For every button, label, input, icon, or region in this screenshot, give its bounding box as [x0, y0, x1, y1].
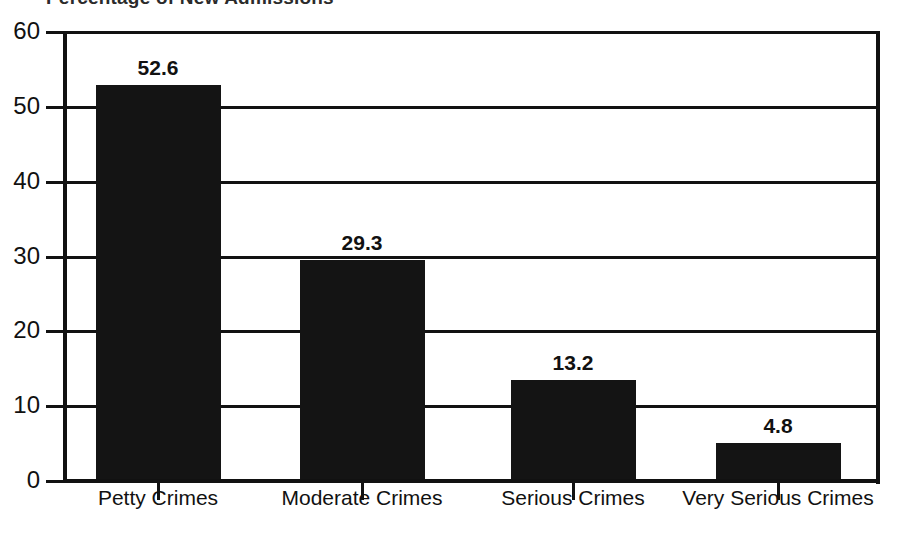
bar-value-label: 29.3: [302, 232, 422, 253]
y-axis-tick-label: 40: [13, 169, 40, 193]
y-axis-tick: [46, 256, 63, 259]
bar: [300, 260, 425, 479]
y-axis-tick-label: 30: [13, 244, 40, 268]
y-axis-tick: [46, 106, 63, 109]
bar-value-label: 4.8: [718, 415, 838, 436]
y-axis-tick: [46, 405, 63, 408]
y-axis-tick-label: 50: [13, 94, 40, 118]
x-category-label: Very Serious Crimes: [648, 487, 901, 508]
plot-area: [63, 32, 880, 481]
gridline: [63, 31, 880, 34]
bar: [96, 85, 221, 479]
y-axis-tick: [46, 480, 63, 483]
y-axis-tick: [46, 330, 63, 333]
y-axis-tick-label: 60: [13, 19, 40, 43]
y-axis-tick: [46, 31, 63, 34]
y-axis-tick: [46, 181, 63, 184]
bar-value-label: 52.6: [98, 57, 218, 78]
y-axis-tick-label: 10: [13, 393, 40, 417]
chart-title: Percentage of New Admissions: [46, 0, 334, 9]
bar-value-label: 13.2: [513, 352, 633, 373]
bar: [716, 443, 841, 479]
y-axis-tick-label: 20: [13, 318, 40, 342]
gridline: [63, 480, 880, 483]
bar: [511, 380, 636, 479]
bar-chart-figure: Percentage of New Admissions 60504030201…: [0, 0, 901, 538]
